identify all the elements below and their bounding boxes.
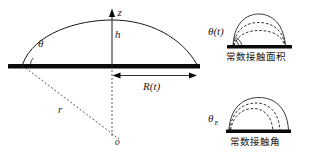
inset-constant-contact-angle: θ E 常数接触角 <box>208 98 291 148</box>
contact-radius-arrowhead-right <box>189 73 197 79</box>
inset-top-angle-label: θ(t) <box>208 25 224 38</box>
inset-top-dashed-drop-1 <box>234 23 286 46</box>
contact-angle-label: θ <box>38 37 44 49</box>
diagram-canvas: z h θ r o R(t) <box>0 0 318 157</box>
contact-radius-label: R(t) <box>142 80 160 93</box>
inset-bottom-substrate <box>226 130 291 134</box>
inset-top-caption: 常数接触面积 <box>226 51 286 62</box>
main-panel: z h θ r o R(t) <box>8 6 200 147</box>
figure-root: z h θ r o R(t) <box>0 0 318 157</box>
radius-of-curvature-line <box>23 66 120 140</box>
contact-radius-dimension: R(t) <box>113 73 198 93</box>
inset-bottom-caption: 常数接触角 <box>230 136 280 147</box>
contact-radius-arrowhead-left <box>113 73 121 79</box>
radius-label: r <box>58 103 63 115</box>
z-axis-label: z <box>117 6 123 18</box>
center-of-curvature-label: o <box>115 137 120 147</box>
inset-constant-contact-area: θ(t) 常数接触面积 <box>208 14 292 62</box>
inset-bottom-angle-label-group: θ E <box>208 112 219 126</box>
inset-bottom-angle-label: θ <box>208 112 214 124</box>
contact-angle-arc <box>31 58 34 64</box>
substrate-bar <box>8 64 200 69</box>
z-axis-arrowhead <box>109 9 115 18</box>
inset-top-substrate <box>227 45 292 49</box>
height-label: h <box>115 28 121 40</box>
inset-bottom-angle-label-subscript: E <box>214 119 219 126</box>
droplet-profile-curve <box>23 20 198 65</box>
